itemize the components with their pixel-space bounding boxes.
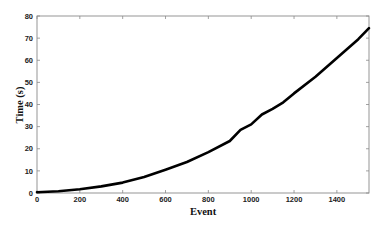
x-tick-label: 1000 (243, 195, 260, 204)
x-tick-label: 600 (159, 195, 172, 204)
axis-ticks (37, 16, 369, 193)
y-axis-label: Time (s) (14, 86, 26, 123)
y-tick-label: 10 (25, 167, 33, 176)
y-tick-label: 30 (25, 122, 33, 131)
x-tick-labels: 0200400600800100012001400 (35, 195, 345, 204)
axes-frame (37, 16, 369, 193)
y-tick-label: 20 (25, 144, 33, 153)
x-axis-label: Event (190, 206, 217, 217)
y-tick-label: 40 (25, 100, 33, 109)
y-tick-label: 50 (25, 78, 33, 87)
line-chart: 01020304050607080 0200400600800100012001… (0, 0, 388, 225)
x-tick-label: 800 (202, 195, 215, 204)
y-tick-labels: 01020304050607080 (25, 12, 33, 198)
y-tick-label: 0 (29, 189, 33, 198)
x-tick-label: 1400 (329, 195, 346, 204)
y-tick-label: 80 (25, 12, 33, 21)
time-series-line (37, 28, 369, 192)
x-tick-label: 200 (74, 195, 87, 204)
y-tick-label: 70 (25, 34, 33, 43)
x-tick-label: 400 (116, 195, 129, 204)
x-tick-label: 0 (35, 195, 39, 204)
x-tick-label: 1200 (286, 195, 303, 204)
y-tick-label: 60 (25, 56, 33, 65)
